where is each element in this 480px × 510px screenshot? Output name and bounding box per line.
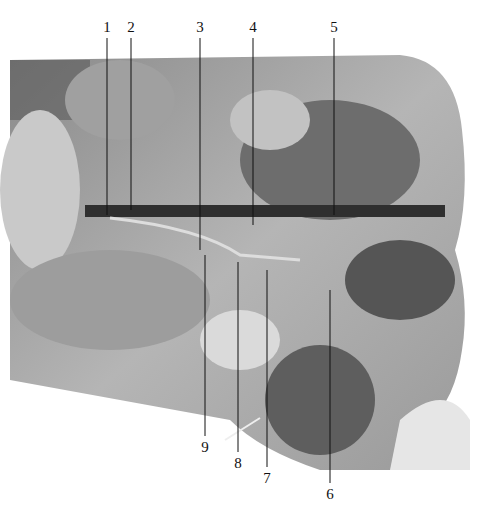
label-5: 5 bbox=[330, 20, 338, 35]
label-4: 4 bbox=[249, 20, 257, 35]
label-3: 3 bbox=[196, 20, 204, 35]
label-6: 6 bbox=[326, 487, 334, 502]
label-2: 2 bbox=[127, 20, 135, 35]
label-1: 1 bbox=[103, 20, 111, 35]
label-9: 9 bbox=[201, 440, 209, 455]
dissection-photo bbox=[0, 0, 480, 510]
label-8: 8 bbox=[234, 456, 242, 471]
figure: 1 2 3 4 5 9 8 7 6 bbox=[0, 0, 480, 510]
label-7: 7 bbox=[263, 471, 271, 486]
